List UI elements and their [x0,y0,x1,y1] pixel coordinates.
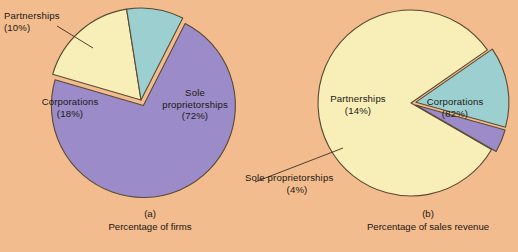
pie-a-label-sole-proprietorships-name-2: proprietorships [152,99,238,111]
panel-a-tag: (a) [80,208,220,221]
pie-b-label-partnerships: Partnerships (14%) [320,93,396,116]
panel-b-tag: (b) [344,208,512,221]
pie-b-label-partnerships-value: (14%) [320,105,396,117]
pie-b-label-corporations-value: (82%) [415,108,495,120]
pie-a-label-corporations: Corporations (18%) [28,96,112,119]
panel-a-caption: (a) Percentage of firms [80,208,220,233]
pie-b-label-partnerships-name: Partnerships [320,93,396,105]
pie-b-label-corporations: Corporations (82%) [415,96,495,119]
pie-a-label-corporations-name: Corporations [28,96,112,108]
pie-chart-figure: Partnerships (10%) Corporations (18%) So… [0,0,518,252]
pie-b-label-corporations-name: Corporations [415,96,495,108]
pie-a-label-sole-proprietorships: Sole proprietorships (72%) [152,87,238,122]
panel-b-caption: (b) Percentage of sales revenue [344,208,512,233]
pie-a-label-partnerships-name: Partnerships [4,10,88,22]
panel-a-caption-text: Percentage of firms [80,221,220,234]
pie-b-label-sole-proprietorships-name: Sole proprietorships [245,172,349,184]
pie-a-label-sole-proprietorships-value: (72%) [152,110,238,122]
panel-b-caption-text: Percentage of sales revenue [344,221,512,234]
pie-b-label-sole-proprietorships-value: (4%) [245,184,349,196]
pie-a-label-partnerships-value: (10%) [4,22,88,34]
pie-a-label-corporations-value: (18%) [28,108,112,120]
pie-a-label-partnerships: Partnerships (10%) [4,10,88,33]
pie-b-label-sole-proprietorships: Sole proprietorships (4%) [245,172,349,195]
pie-a-label-sole-proprietorships-name-1: Sole [152,87,238,99]
